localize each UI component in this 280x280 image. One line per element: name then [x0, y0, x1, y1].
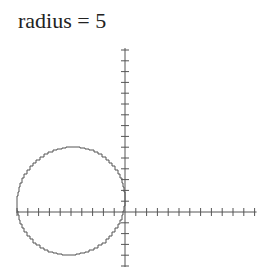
plot-area	[0, 0, 280, 280]
circle-curve	[17, 147, 125, 255]
chart-root: radius = 5	[0, 0, 280, 280]
